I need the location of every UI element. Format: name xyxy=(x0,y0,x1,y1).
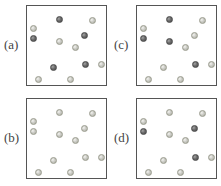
dark-particle xyxy=(192,154,199,161)
particle-box xyxy=(26,98,107,179)
dark-particle xyxy=(81,32,88,39)
light-particle xyxy=(35,76,42,83)
panel-c: (c) xyxy=(110,0,220,93)
light-particle xyxy=(140,25,147,32)
light-particle xyxy=(182,44,189,51)
light-particle xyxy=(166,131,173,138)
light-particle xyxy=(81,125,88,132)
light-particle xyxy=(208,154,215,161)
dark-particle xyxy=(140,128,147,135)
light-particle xyxy=(208,61,215,68)
light-particle xyxy=(72,137,79,144)
light-particle xyxy=(89,17,96,24)
dark-particle xyxy=(82,61,89,68)
light-particle xyxy=(67,169,74,176)
light-particle xyxy=(30,128,37,135)
light-particle xyxy=(145,76,152,83)
light-particle xyxy=(50,157,57,164)
light-particle xyxy=(199,17,206,24)
light-particle xyxy=(191,32,198,39)
light-particle xyxy=(160,157,167,164)
light-particle xyxy=(177,76,184,83)
light-particle xyxy=(98,154,105,161)
panel-label: (b) xyxy=(4,131,19,144)
dark-particle xyxy=(192,61,199,68)
panel-label: (d) xyxy=(114,131,129,144)
panel-a: (a) xyxy=(0,0,110,93)
light-particle xyxy=(160,64,167,71)
panel-b: (b) xyxy=(0,93,110,186)
light-particle xyxy=(98,61,105,68)
dark-particle xyxy=(166,38,173,45)
light-particle xyxy=(145,169,152,176)
dark-particle xyxy=(56,16,63,23)
particle-box xyxy=(26,5,107,86)
panel-label: (a) xyxy=(4,38,18,51)
particle-box xyxy=(136,5,217,86)
light-particle xyxy=(35,169,42,176)
light-particle xyxy=(177,169,184,176)
panel-d: (d) xyxy=(110,93,220,186)
dark-particle xyxy=(30,35,37,42)
light-particle xyxy=(56,131,63,138)
light-particle xyxy=(30,118,37,125)
light-particle xyxy=(56,38,63,45)
light-particle xyxy=(166,109,173,116)
dark-particle xyxy=(191,125,198,132)
light-particle xyxy=(72,44,79,51)
light-particle xyxy=(56,109,63,116)
dark-particle xyxy=(50,64,57,71)
light-particle xyxy=(82,154,89,161)
dark-particle xyxy=(166,16,173,23)
light-particle xyxy=(89,110,96,117)
light-particle xyxy=(30,25,37,32)
panel-label: (c) xyxy=(114,38,128,51)
light-particle xyxy=(182,137,189,144)
light-particle xyxy=(140,118,147,125)
particle-box xyxy=(136,98,217,179)
dark-particle xyxy=(140,35,147,42)
light-particle xyxy=(67,76,74,83)
light-particle xyxy=(199,110,206,117)
